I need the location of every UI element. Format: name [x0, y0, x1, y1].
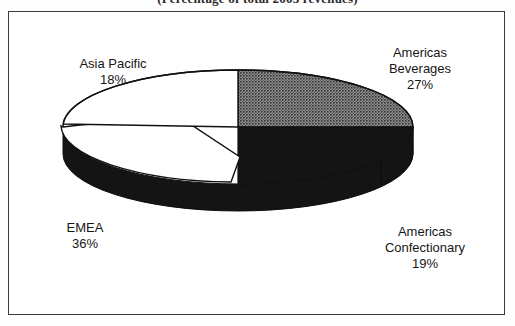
- pie-label-americas-confectionary-name1: Americas: [339, 224, 511, 240]
- pie-label-americas-beverages-name2: Beverages: [345, 61, 495, 77]
- pie-label-emea-name: EMEA: [25, 220, 145, 236]
- pie-label-americas-confectionary-value: 19%: [339, 256, 511, 272]
- pie-label-americas-beverages-name1: Americas: [345, 45, 495, 61]
- pie-label-americas-beverages-value: 27%: [345, 77, 495, 93]
- pie-label-emea: EMEA 36%: [25, 220, 145, 252]
- pie-label-americas-beverages: Americas Beverages 27%: [345, 45, 495, 93]
- chart-frame-border: Asia Pacific 18% Americas Beverages 27% …: [8, 11, 505, 315]
- chart-title-clipped: (Percentage of total 2003 revenues): [0, 0, 515, 11]
- pie-label-americas-confectionary: Americas Confectionary 19%: [339, 224, 511, 272]
- pie-label-emea-value: 36%: [25, 236, 145, 252]
- pie-label-asia-pacific-value: 18%: [43, 72, 183, 88]
- pie-label-asia-pacific-name: Asia Pacific: [43, 56, 183, 72]
- pie-label-americas-confectionary-name2: Confectionary: [339, 240, 511, 256]
- chart-page: (Percentage of total 2003 revenues): [0, 0, 515, 326]
- chart-title: (Percentage of total 2003 revenues): [0, 0, 515, 7]
- pie-label-asia-pacific: Asia Pacific 18%: [43, 56, 183, 88]
